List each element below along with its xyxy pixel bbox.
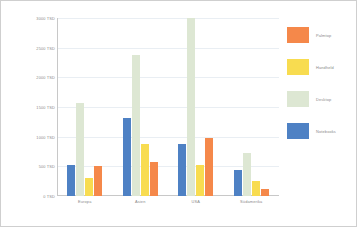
bar <box>252 181 260 196</box>
bar-group <box>168 18 224 196</box>
bar <box>94 166 102 196</box>
bar <box>123 118 131 196</box>
legend-item[interactable]: Notebooks <box>287 115 355 147</box>
bar <box>141 144 149 196</box>
bar <box>132 55 140 196</box>
bar-group <box>113 18 169 196</box>
x-axis-tick-label: Europa <box>57 199 113 204</box>
bar <box>234 170 242 196</box>
y-axis-tick-label: 2000 TSD <box>3 75 55 80</box>
legend-item[interactable]: Handheld <box>287 51 355 83</box>
bar <box>187 18 195 196</box>
y-axis-tick-labels: 3000 TSD2500 TSD2000 TSD1500 TSD1000 TSD… <box>1 18 55 196</box>
x-axis-tick-label: Asien <box>113 199 169 204</box>
bar-group <box>224 18 280 196</box>
x-axis-tick-label: Südamerika <box>224 199 280 204</box>
legend-item[interactable]: Palmtop <box>287 19 355 51</box>
x-axis-tick-label: USA <box>168 199 224 204</box>
y-axis-tick-label: 2500 TSD <box>3 45 55 50</box>
legend-swatch <box>287 123 309 139</box>
bar <box>150 162 158 196</box>
bar <box>243 153 251 196</box>
bar <box>196 165 204 196</box>
bar <box>205 138 213 196</box>
legend-item[interactable]: Desktop <box>287 83 355 115</box>
legend-swatch <box>287 59 309 75</box>
y-axis-tick-label: 1000 TSD <box>3 134 55 139</box>
plot-area <box>57 18 279 196</box>
chart-legend: PalmtopHandheldDesktopNotebooks <box>287 19 355 147</box>
legend-label: Desktop <box>316 97 331 102</box>
legend-swatch <box>287 91 309 107</box>
bar-groups <box>57 18 279 196</box>
legend-label: Notebooks <box>316 129 336 134</box>
legend-label: Handheld <box>316 65 334 70</box>
chart-container: 3000 TSD2500 TSD2000 TSD1500 TSD1000 TSD… <box>0 0 357 227</box>
legend-label: Palmtop <box>316 33 331 38</box>
bar <box>85 178 93 196</box>
y-axis-tick-label: 500 TSD <box>3 164 55 169</box>
legend-swatch <box>287 27 309 43</box>
y-axis-tick-label: 0 TSD <box>3 194 55 199</box>
bar <box>178 144 186 196</box>
bar <box>76 103 84 196</box>
bar <box>261 189 269 196</box>
x-axis-tick-labels: EuropaAsienUSASüdamerika <box>57 199 279 204</box>
y-axis-tick-label: 1500 TSD <box>3 105 55 110</box>
y-axis-tick-label: 3000 TSD <box>3 16 55 21</box>
bar <box>67 165 75 196</box>
bar-group <box>57 18 113 196</box>
